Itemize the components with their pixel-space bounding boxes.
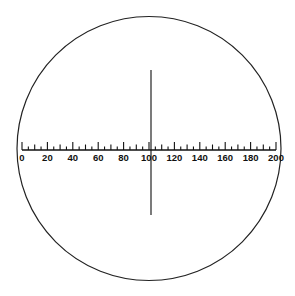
scale-label: 180: [243, 152, 259, 163]
scale-labels: 020406080100120140160180200: [19, 152, 284, 163]
scale-label: 160: [217, 152, 233, 163]
scale-label: 20: [42, 152, 53, 163]
scale-label: 0: [19, 152, 24, 163]
scale-label: 80: [118, 152, 129, 163]
scale-label: 120: [166, 152, 182, 163]
scale-label: 140: [192, 152, 208, 163]
reticle-diagram: 020406080100120140160180200: [0, 0, 295, 296]
scale-label: 100: [141, 152, 157, 163]
scale-label: 40: [68, 152, 79, 163]
scale-label: 200: [268, 152, 284, 163]
scale-label: 60: [93, 152, 104, 163]
measurement-scale: [22, 142, 276, 150]
